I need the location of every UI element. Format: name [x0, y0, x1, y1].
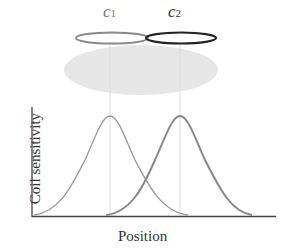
x-axis-label: Position [118, 228, 167, 245]
y-axis-label: Coil sensitivity [27, 104, 44, 214]
coil1-sensitivity-curve [34, 116, 188, 215]
coil1-ellipse [76, 33, 148, 44]
coil2-sensitivity-curve [106, 116, 252, 215]
object-region [64, 45, 218, 95]
coil2-ellipse [146, 33, 216, 44]
coil2-label: c2 [168, 2, 181, 22]
coil1-label: c1 [103, 2, 116, 22]
